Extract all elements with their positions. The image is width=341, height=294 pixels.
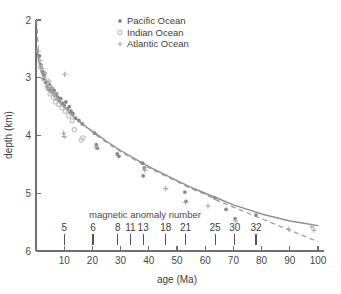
x-tick-label: 10 xyxy=(59,255,71,266)
data-point-open-circle xyxy=(67,114,71,118)
x-tick-label: 40 xyxy=(143,255,155,266)
x-tick-label: 20 xyxy=(87,255,99,266)
legend-label: Atlantic Ocean xyxy=(127,38,189,49)
x-tick-label: 100 xyxy=(310,255,327,266)
data-point-plus xyxy=(62,134,67,139)
data-point-filled-circle xyxy=(254,213,258,217)
legend-marker-plus xyxy=(117,41,122,46)
y-tick-label: 3 xyxy=(25,72,31,83)
x-tick-label: 60 xyxy=(200,255,212,266)
data-point-filled-circle xyxy=(213,196,217,200)
anomaly-label: 5 xyxy=(61,222,67,233)
legend-marker-filled-circle xyxy=(118,19,122,23)
x-tick-label: 70 xyxy=(228,255,240,266)
data-point-filled-circle xyxy=(71,112,75,116)
anomaly-label: 6 xyxy=(90,222,96,233)
y-tick-label: 6 xyxy=(25,246,31,257)
legend-label: Indian Ocean xyxy=(127,27,184,38)
x-tick-label: 80 xyxy=(256,255,268,266)
y-tick-label: 2 xyxy=(25,15,31,26)
data-point-filled-circle xyxy=(141,161,145,165)
data-point-plus xyxy=(62,72,67,77)
anomaly-label: 18 xyxy=(160,222,172,233)
data-point-filled-circle xyxy=(224,208,228,212)
data-point-filled-circle xyxy=(142,166,146,170)
data-point-filled-circle xyxy=(233,217,237,221)
legend-marker-open-circle xyxy=(118,30,122,34)
chart-canvas: 2345610203040506070809010056811131821253… xyxy=(0,0,341,294)
anomaly-label: 11 xyxy=(125,222,136,233)
data-point-filled-circle xyxy=(80,122,84,126)
x-tick-label: 50 xyxy=(171,255,183,266)
anomaly-label: 30 xyxy=(229,222,241,233)
anomaly-label: 21 xyxy=(180,222,192,233)
x-tick-label: 90 xyxy=(284,255,296,266)
y-tick-label: 5 xyxy=(25,188,31,199)
plate-model-curve xyxy=(37,49,318,226)
anomaly-label: 25 xyxy=(210,222,222,233)
legend-label: Pacific Ocean xyxy=(127,15,186,26)
data-point-filled-circle xyxy=(117,154,121,158)
data-point-plus xyxy=(163,186,168,191)
data-point-filled-circle xyxy=(77,119,81,123)
data-point-filled-circle xyxy=(93,131,97,135)
data-point-plus xyxy=(205,203,210,208)
anomaly-label: 8 xyxy=(115,222,121,233)
data-point-open-circle xyxy=(72,128,76,132)
data-point-open-circle xyxy=(70,118,74,122)
anomaly-label: 32 xyxy=(250,222,262,233)
anomaly-label: 13 xyxy=(138,222,150,233)
x-axis-title: age (Ma) xyxy=(157,274,197,285)
x-tick-label: 30 xyxy=(115,255,127,266)
data-point-filled-circle xyxy=(141,174,145,178)
data-point-filled-circle xyxy=(67,105,71,109)
data-point-plus xyxy=(61,131,66,136)
data-point-filled-circle xyxy=(64,100,68,104)
data-point-filled-circle xyxy=(37,54,41,58)
y-axis-title: depth (km) xyxy=(3,111,14,159)
data-point-filled-circle xyxy=(94,143,98,147)
magnetic-anomaly-caption: magnetic anomaly number xyxy=(89,209,201,220)
data-point-filled-circle xyxy=(183,190,187,194)
y-tick-label: 4 xyxy=(25,130,31,141)
ocean-depth-vs-age-chart: 2345610203040506070809010056811131821253… xyxy=(0,0,341,294)
